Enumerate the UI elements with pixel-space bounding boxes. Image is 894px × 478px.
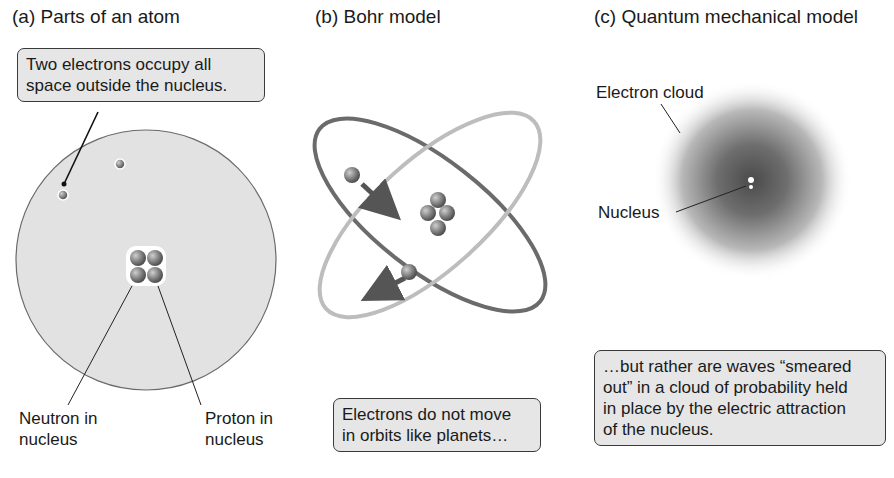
electron-callout: Two electrons occupy all space outside t… <box>17 48 265 102</box>
nucleus-label: Nucleus <box>598 202 659 223</box>
nucleus-icon <box>420 192 455 236</box>
panel-b-title: (b) Bohr model <box>315 6 441 28</box>
callout-line: out” in a cloud of probability held <box>603 377 877 398</box>
bohr-callout: Electrons do not move in orbits like pla… <box>333 398 541 452</box>
callout-line: in orbits like planets… <box>342 425 532 446</box>
label-line: Proton in <box>205 408 273 429</box>
electron-cloud-label: Electron cloud <box>596 82 704 103</box>
quantum-callout: …but rather are waves “smeared out” in a… <box>594 350 886 446</box>
callout-line: in place by the electric attraction <box>603 398 877 419</box>
callout-line: of the nucleus. <box>603 419 877 440</box>
nucleus-icon <box>126 246 166 286</box>
panel-c-title: (c) Quantum mechanical model <box>594 6 858 28</box>
callout-line: …but rather are waves “smeared <box>603 356 877 377</box>
proton-label: Proton in nucleus <box>205 408 273 450</box>
panel-a-title: (a) Parts of an atom <box>12 6 180 28</box>
neutron-label: Neutron in nucleus <box>19 408 97 450</box>
callout-line: space outside the nucleus. <box>26 75 256 96</box>
callout-line: Electrons do not move <box>342 404 532 425</box>
label-line: nucleus <box>19 429 97 450</box>
label-line: nucleus <box>205 429 273 450</box>
label-line: Neutron in <box>19 408 97 429</box>
callout-line: Two electrons occupy all <box>26 54 256 75</box>
